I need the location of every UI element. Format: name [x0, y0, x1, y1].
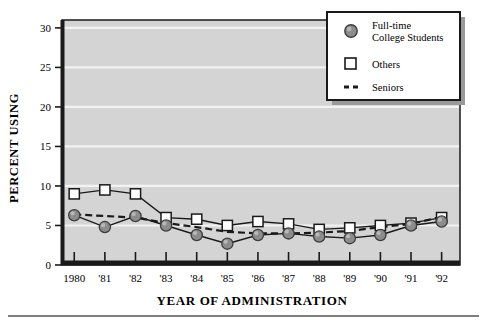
data-point-highlight — [162, 221, 166, 225]
data-point-highlight — [315, 233, 319, 237]
data-point-highlight — [407, 221, 411, 225]
legend-label-line1: Full-time — [372, 20, 411, 31]
x-tick-label: 1980 — [63, 272, 86, 284]
data-point-highlight — [132, 212, 136, 216]
filled-circle-icon — [345, 25, 357, 37]
legend-item-others[interactable]: Others — [345, 58, 400, 70]
data-point-circle — [69, 210, 80, 221]
data-point-circle — [252, 229, 263, 240]
x-tick-label: '86 — [251, 272, 264, 284]
data-point-circle — [160, 220, 171, 231]
data-point-highlight — [377, 231, 381, 235]
data-point-highlight — [70, 211, 74, 215]
filled-circle-highlight-icon — [347, 27, 352, 32]
x-tick-label: '90 — [374, 272, 387, 284]
x-tick-label: '84 — [190, 272, 203, 284]
y-tick-label: 10 — [40, 180, 52, 192]
data-point-square — [100, 185, 110, 195]
data-point-highlight — [101, 223, 105, 227]
data-point-highlight — [224, 240, 228, 244]
data-point-circle — [283, 228, 294, 239]
x-tick-label: '88 — [313, 272, 326, 284]
x-tick-label: '82 — [129, 272, 142, 284]
data-point-highlight — [346, 234, 350, 238]
data-point-circle — [436, 216, 447, 227]
data-point-circle — [222, 238, 233, 249]
data-point-circle — [344, 233, 355, 244]
data-point-highlight — [254, 231, 258, 235]
x-tick-label: '87 — [282, 272, 295, 284]
data-point-circle — [405, 220, 416, 231]
x-tick-label: '83 — [160, 272, 173, 284]
x-tick-label: '91 — [405, 272, 418, 284]
data-point-circle — [130, 210, 141, 221]
legend-label-line1: Others — [372, 59, 400, 70]
y-tick-label: 25 — [40, 61, 52, 73]
data-point-square — [130, 189, 140, 199]
y-tick-label: 20 — [40, 101, 52, 113]
x-tick-label: '92 — [435, 272, 448, 284]
y-axis-tick-labels: 051015202530 — [40, 22, 52, 271]
x-tick-label: '85 — [221, 272, 234, 284]
x-tick-label: '81 — [98, 272, 111, 284]
data-point-square — [222, 220, 232, 230]
y-tick-label: 30 — [40, 22, 52, 34]
y-axis-title: PERCENT USING — [7, 93, 21, 203]
data-point-square — [253, 216, 263, 226]
data-point-highlight — [285, 229, 289, 233]
chart-figure: 051015202530 1980'81'82'83'84'85'86'87'8… — [0, 0, 487, 320]
y-tick-label: 0 — [46, 259, 52, 271]
data-point-circle — [99, 221, 110, 232]
data-point-square — [69, 189, 79, 199]
y-tick-label: 15 — [40, 140, 52, 152]
x-tick-label: '89 — [343, 272, 356, 284]
open-square-icon — [345, 58, 356, 69]
data-point-highlight — [438, 218, 442, 222]
data-point-square — [345, 223, 355, 233]
data-point-highlight — [193, 231, 197, 235]
chart-svg: 051015202530 1980'81'82'83'84'85'86'87'8… — [0, 0, 487, 320]
legend-label-line1: Seniors — [372, 82, 404, 93]
legend-label-line2: College Students — [372, 32, 443, 43]
data-point-circle — [314, 231, 325, 242]
data-point-circle — [375, 229, 386, 240]
x-axis-title: YEAR OF ADMINISTRATION — [157, 293, 348, 308]
y-tick-label: 5 — [46, 219, 52, 231]
data-point-square — [192, 214, 202, 224]
chart-legend[interactable]: Full-time College Students Others Senior… — [327, 12, 465, 105]
data-point-circle — [191, 229, 202, 240]
x-axis-tick-labels: 1980'81'82'83'84'85'86'87'88'89'90'91'92 — [63, 272, 448, 284]
